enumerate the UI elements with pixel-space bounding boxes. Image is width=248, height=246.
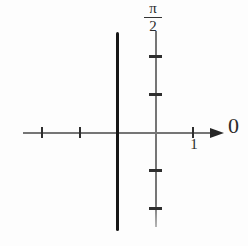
x-axis-arrow-label: 0: [228, 115, 239, 137]
y-axis-line: [155, 31, 157, 227]
x-axis-tick: [41, 127, 43, 138]
y-axis-tick: [149, 55, 162, 57]
y-axis-top-label: π 2: [144, 1, 162, 34]
fraction-numerator: π: [144, 1, 162, 18]
figure-canvas: π 2 0 1: [0, 0, 248, 246]
plotted-vertical-line: [116, 32, 119, 232]
x-tick-label-1: 1: [188, 137, 200, 152]
y-axis-tick: [149, 169, 162, 171]
fraction-denominator: 2: [144, 18, 162, 34]
x-axis-arrowhead-icon: [210, 128, 224, 138]
y-axis-tick: [149, 93, 162, 95]
x-axis-tick: [79, 127, 81, 138]
x-axis-tick: [192, 127, 194, 138]
y-axis-tick: [149, 207, 162, 209]
